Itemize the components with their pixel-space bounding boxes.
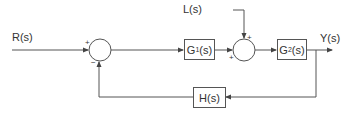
g2-name: G bbox=[279, 44, 288, 56]
g2-block: G2(s) bbox=[277, 39, 307, 60]
g1-suffix: (s) bbox=[199, 44, 212, 56]
feedback-return-line bbox=[99, 62, 193, 97]
g1-block: G1(s) bbox=[184, 39, 215, 60]
g1-name: G bbox=[187, 44, 196, 56]
sum1-plus-sign: + bbox=[85, 39, 90, 47]
disturbance-line bbox=[233, 10, 244, 38]
disturbance-label: L(s) bbox=[183, 3, 202, 15]
sum1-minus-sign: − bbox=[91, 59, 96, 67]
summing-junction-2 bbox=[233, 39, 255, 61]
output-label: Y(s) bbox=[320, 32, 340, 44]
sum2-left-plus-sign: + bbox=[229, 54, 234, 62]
input-label: R(s) bbox=[12, 31, 33, 43]
sum2-top-plus-sign: + bbox=[247, 34, 252, 42]
g2-suffix: (s) bbox=[292, 44, 305, 56]
h-block: H(s) bbox=[193, 87, 226, 108]
h-label: H(s) bbox=[199, 92, 220, 104]
